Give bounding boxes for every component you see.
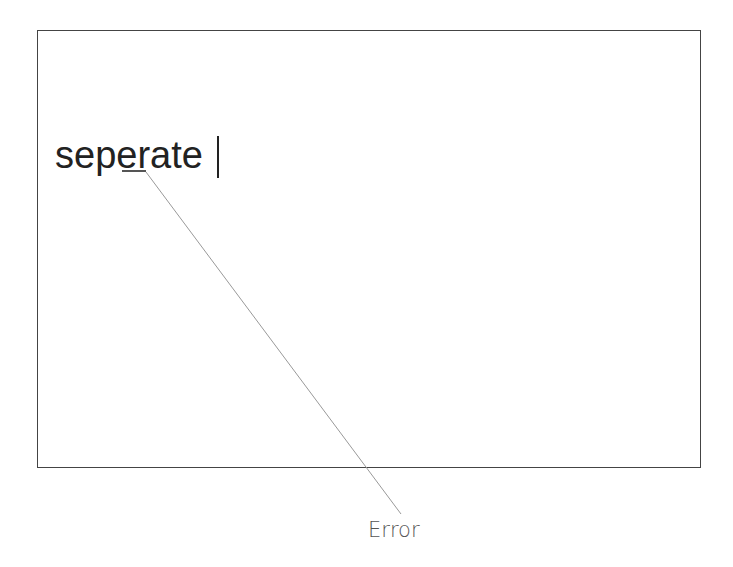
text-caret: [217, 136, 219, 178]
text-input-frame[interactable]: [37, 30, 701, 468]
error-label: Error: [368, 518, 420, 542]
error-underline: [122, 170, 146, 172]
